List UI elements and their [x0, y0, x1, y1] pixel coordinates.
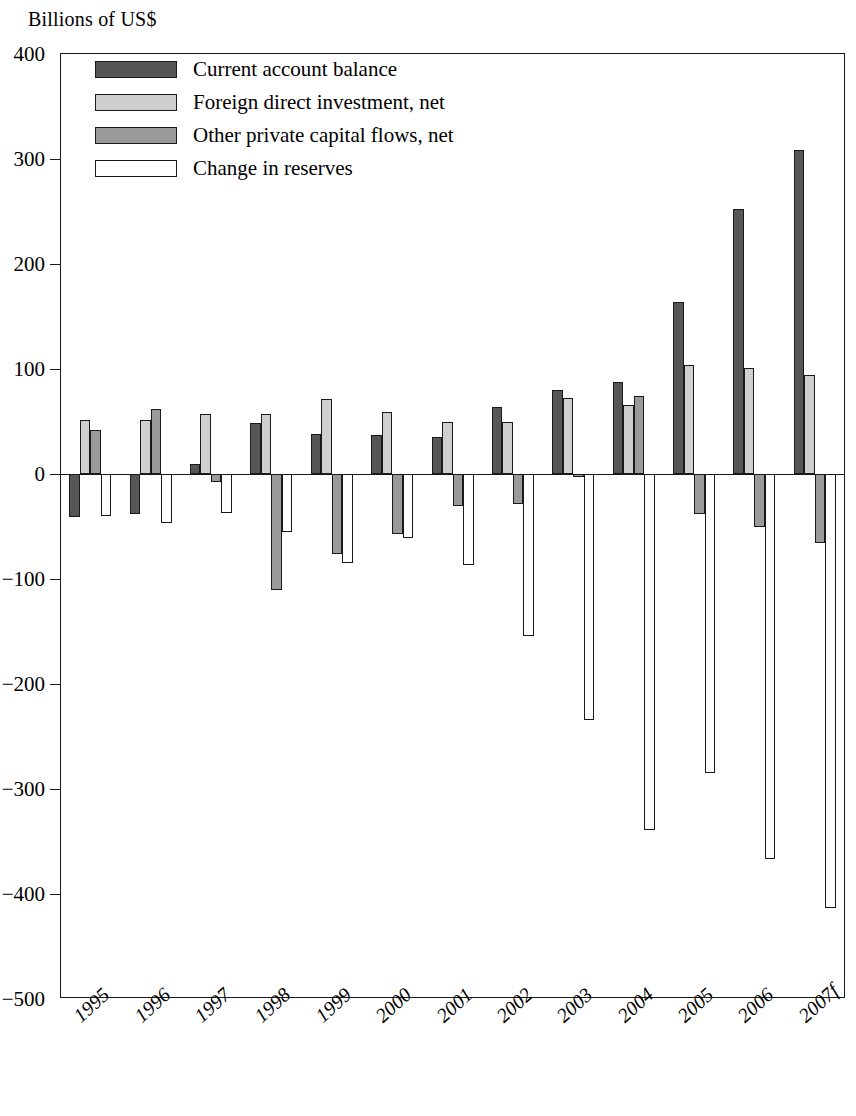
- bar: [644, 474, 655, 830]
- bar: [371, 435, 382, 474]
- y-axis-tick-label: 100: [14, 357, 46, 382]
- y-axis-tick: [50, 789, 61, 790]
- bar: [90, 430, 101, 474]
- bar: [442, 422, 453, 475]
- bar: [513, 474, 524, 504]
- legend-swatch-icon: [95, 127, 177, 144]
- bar: [211, 474, 222, 482]
- legend-swatch-icon: [95, 61, 177, 78]
- bar-group: [733, 54, 775, 997]
- bar: [130, 474, 141, 514]
- y-axis-tick: [50, 579, 61, 580]
- y-axis-tick: [50, 369, 61, 370]
- bar: [552, 390, 563, 474]
- bar-group: [250, 54, 292, 997]
- y-axis-tick-label: −400: [2, 882, 45, 907]
- legend-item[interactable]: Other private capital flows, net: [95, 121, 425, 150]
- bar-group: [613, 54, 655, 997]
- legend-item[interactable]: Change in reserves: [95, 154, 425, 183]
- bar-group: [190, 54, 232, 997]
- bar: [151, 409, 162, 474]
- bar: [523, 474, 534, 636]
- y-axis-tick-label: 400: [14, 42, 46, 67]
- bar: [684, 365, 695, 474]
- legend-swatch-icon: [95, 94, 177, 111]
- y-axis-tick: [50, 894, 61, 895]
- bar: [190, 464, 201, 475]
- legend-item-label: Other private capital flows, net: [193, 123, 454, 148]
- bar: [453, 474, 464, 506]
- bar: [502, 422, 513, 475]
- bar-group: [432, 54, 474, 997]
- bar: [101, 474, 112, 516]
- y-axis-unit-label: Billions of US$: [28, 8, 157, 31]
- bar: [161, 474, 172, 523]
- bar: [694, 474, 705, 514]
- bar: [200, 414, 211, 474]
- legend-item[interactable]: Foreign direct investment, net: [95, 88, 425, 117]
- bar: [80, 420, 91, 474]
- bar: [794, 150, 805, 474]
- bar: [432, 437, 443, 474]
- bar: [733, 209, 744, 474]
- legend-item-label: Change in reserves: [193, 156, 353, 181]
- bar-series-container: [61, 54, 844, 997]
- bar: [321, 399, 332, 474]
- y-axis-tick-label: −200: [2, 672, 45, 697]
- y-axis-tick-label: 300: [14, 147, 46, 172]
- y-axis-tick: [50, 474, 61, 475]
- y-axis-tick-label: 0: [35, 462, 46, 487]
- bar-group: [371, 54, 413, 997]
- bar: [332, 474, 343, 554]
- legend-item[interactable]: Current account balance: [95, 55, 425, 84]
- bar: [392, 474, 403, 534]
- bar: [311, 434, 322, 474]
- bar: [584, 474, 595, 720]
- legend-item-label: Current account balance: [193, 57, 397, 82]
- bar: [804, 375, 815, 474]
- bar: [463, 474, 474, 565]
- y-axis-tick: [50, 684, 61, 685]
- y-axis-tick: [50, 159, 61, 160]
- zero-baseline: [61, 474, 844, 475]
- bar: [744, 368, 755, 474]
- bar-group: [552, 54, 594, 997]
- bar-group: [794, 54, 836, 997]
- bar: [140, 420, 151, 474]
- y-axis-tick: [50, 264, 61, 265]
- bar-group: [492, 54, 534, 997]
- bar: [765, 474, 776, 859]
- bar: [623, 405, 634, 474]
- chart-page: Billions of US$ 4003002001000−100−200−30…: [0, 0, 856, 1116]
- bar: [271, 474, 282, 590]
- bar-group: [69, 54, 111, 997]
- bar: [825, 474, 836, 908]
- bar: [492, 407, 503, 474]
- bar: [705, 474, 716, 773]
- bar: [403, 474, 414, 538]
- bar: [282, 474, 293, 532]
- bar: [382, 412, 393, 474]
- bar-group: [130, 54, 172, 997]
- y-axis-tick-label: −100: [2, 567, 45, 592]
- bar: [221, 474, 232, 513]
- bar: [250, 423, 261, 474]
- bar: [613, 382, 624, 474]
- bar: [563, 398, 574, 474]
- legend-item-label: Foreign direct investment, net: [193, 90, 445, 115]
- bar: [634, 396, 645, 474]
- bar: [69, 474, 80, 517]
- bar: [815, 474, 826, 543]
- y-axis-tick-label: −300: [2, 777, 45, 802]
- bar: [342, 474, 353, 563]
- legend-swatch-icon: [95, 160, 177, 177]
- plot-area: 4003002001000−100−200−300−400−500: [60, 53, 845, 998]
- bar: [261, 414, 272, 474]
- y-axis-tick-label: −500: [2, 987, 45, 1012]
- bar: [754, 474, 765, 527]
- y-axis-tick-label: 200: [14, 252, 46, 277]
- chart-legend: Current account balanceForeign direct in…: [95, 55, 425, 187]
- bar-group: [673, 54, 715, 997]
- bar-group: [311, 54, 353, 997]
- bar: [673, 302, 684, 474]
